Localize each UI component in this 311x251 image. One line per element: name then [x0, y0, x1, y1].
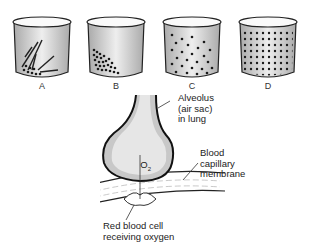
oxygen-label: O2: [135, 149, 151, 174]
beaker-d: [236, 12, 300, 80]
capillary-membrane-label: Blood capillary membrane: [200, 148, 245, 180]
beaker-a: [10, 12, 74, 80]
beaker-b-label: B: [84, 81, 148, 91]
beaker-c-label: C: [160, 81, 224, 91]
beaker-b: [84, 12, 148, 80]
beaker-c: [160, 12, 224, 80]
alveolus-label: Alveolus (air sac) in lung: [178, 93, 214, 125]
oxygen-symbol: O: [140, 159, 147, 170]
red-blood-cell-label: Red blood cell receiving oxygen: [103, 221, 174, 242]
oxygen-subscript: 2: [148, 165, 151, 171]
beaker-a-label: A: [10, 81, 74, 91]
beaker-d-label: D: [236, 81, 300, 91]
